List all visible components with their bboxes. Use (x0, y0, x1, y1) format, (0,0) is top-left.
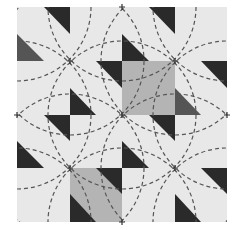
gray-square (122, 61, 175, 115)
quilt-pattern (0, 0, 234, 230)
